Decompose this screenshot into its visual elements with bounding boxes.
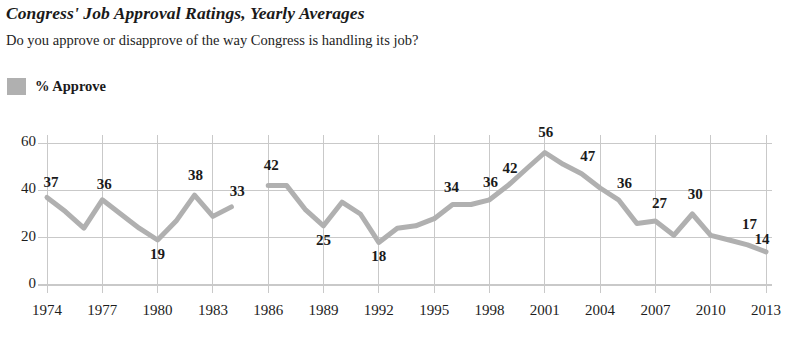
x-axis-tick-label: 2013 — [738, 302, 786, 319]
x-axis-tick-label: 2010 — [683, 302, 739, 319]
x-axis-tick-label: 1974 — [19, 302, 75, 319]
data-point-label: 56 — [531, 124, 561, 141]
data-point-label: 33 — [222, 183, 252, 200]
x-axis-tick-label: 1989 — [296, 302, 352, 319]
data-point-label: 38 — [180, 167, 210, 184]
x-axis-tick-label: 1977 — [74, 302, 130, 319]
y-axis-tick-label: 40 — [2, 180, 36, 197]
data-point-label: 37 — [36, 174, 66, 191]
x-axis-tick-label: 1986 — [240, 302, 296, 319]
data-point-label: 30 — [680, 186, 710, 203]
data-point-label: 25 — [309, 232, 339, 249]
x-axis-tick-label: 1998 — [461, 302, 517, 319]
x-axis-tick-label: 2007 — [627, 302, 683, 319]
x-axis-tick-label: 1992 — [351, 302, 407, 319]
y-axis-tick-label: 20 — [2, 228, 36, 245]
data-point-label: 14 — [747, 231, 777, 248]
data-point-label: 27 — [644, 195, 674, 212]
y-axis-tick-label: 60 — [2, 133, 36, 150]
data-point-label: 18 — [364, 248, 394, 265]
y-axis-tick-label: 0 — [2, 275, 36, 292]
data-point-label: 42 — [256, 157, 286, 174]
x-axis-tick-label: 1995 — [406, 302, 462, 319]
x-axis-tick-label: 1980 — [130, 302, 186, 319]
data-line-approve — [47, 195, 231, 240]
data-point-label: 36 — [89, 176, 119, 193]
data-point-label: 34 — [437, 179, 467, 196]
data-point-label: 36 — [610, 175, 640, 192]
data-point-label: 47 — [573, 148, 603, 165]
x-axis-tick-label: 2004 — [572, 302, 628, 319]
data-point-label: 19 — [143, 246, 173, 263]
data-point-label: 42 — [495, 160, 525, 177]
x-axis-tick-label: 1983 — [185, 302, 241, 319]
x-axis-tick-label: 2001 — [517, 302, 573, 319]
